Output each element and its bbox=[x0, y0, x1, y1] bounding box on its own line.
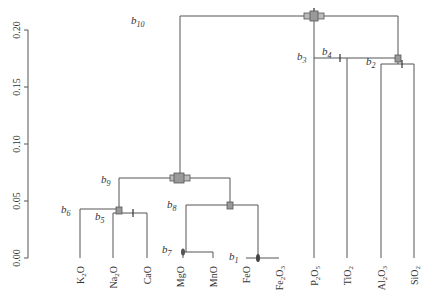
leaf-labels: K2O Na2O CaO MgO MnO FeO Fe2O3 P2O5 TiO2… bbox=[75, 266, 422, 291]
branch-labels: b10 b3 b4 b2 b9 b8 b6 b5 b7 b1 bbox=[61, 14, 376, 265]
y-axis: 0.00 0.05 0.10 0.15 0.20 bbox=[11, 21, 28, 267]
tree-branches bbox=[80, 8, 414, 258]
branch-label-b5: b5 bbox=[95, 210, 105, 225]
leaf-label-mgo: MgO bbox=[175, 266, 186, 287]
leaf-label-fe2o3: Fe2O3 bbox=[274, 266, 287, 291]
leaf-label-na2o: Na2O bbox=[108, 266, 121, 288]
branch-label-b3: b3 bbox=[297, 50, 307, 65]
y-tick-label: 0.00 bbox=[11, 249, 22, 267]
branch-label-b2: b2 bbox=[366, 55, 376, 70]
branch-label-b6: b6 bbox=[61, 203, 71, 218]
leaf-label-tio2: TiO2 bbox=[342, 266, 355, 286]
leaf-label-cao: CaO bbox=[142, 266, 153, 284]
y-tick-label: 0.05 bbox=[11, 192, 22, 210]
leaf-label-feo: FeO bbox=[241, 266, 252, 283]
y-tick-label: 0.10 bbox=[11, 135, 22, 153]
y-tick-label: 0.20 bbox=[11, 21, 22, 39]
leaf-label-sio2: SiO2 bbox=[409, 266, 422, 286]
branch-label-b8: b8 bbox=[167, 198, 177, 213]
dendrogram: 0.00 0.05 0.10 0.15 0.20 bbox=[0, 0, 431, 303]
leaf-label-al2o3: Al2O3 bbox=[376, 266, 389, 291]
y-tick-label: 0.15 bbox=[11, 78, 22, 96]
node-markers bbox=[116, 11, 402, 262]
leaf-label-k2o: K2O bbox=[75, 266, 88, 284]
leaf-label-mno: MnO bbox=[208, 266, 219, 287]
leaf-label-p2o5: P2O5 bbox=[309, 266, 322, 286]
branch-label-b7: b7 bbox=[162, 243, 173, 258]
branch-label-b9: b9 bbox=[101, 173, 111, 188]
branch-label-b10: b10 bbox=[131, 14, 145, 29]
branch-label-b1: b1 bbox=[229, 250, 239, 265]
